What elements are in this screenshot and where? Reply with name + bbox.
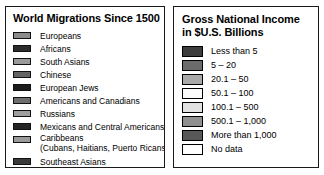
color-swatch-icon: [182, 102, 203, 113]
legend-item-label: 20.1 – 50: [211, 74, 249, 85]
color-swatch-icon: [13, 45, 31, 52]
color-swatch-icon: [13, 123, 31, 130]
legend-item-label: Africans: [40, 44, 71, 54]
migrations-legend-title: World Migrations Since 1500: [13, 12, 158, 25]
color-swatch-icon: [182, 60, 203, 71]
legend-item-label-line2: (Cubans, Haitians, Puerto Ricans): [40, 143, 165, 153]
legend-item-50-to-100: 50.1 – 100: [182, 86, 312, 100]
legend-item-label: Caribbeans (Cubans, Haitians, Puerto Ric…: [40, 133, 165, 153]
legend-item-500-to-1000: 500.1 – 1,000: [182, 114, 312, 128]
legend-item-chinese: Chinese: [13, 68, 158, 81]
color-swatch-icon: [13, 158, 31, 165]
legend-item-africans: Africans: [13, 42, 158, 55]
legend-item-100-to-500: 100.1 – 500: [182, 100, 312, 114]
legend-item-5-to-20: 5 – 20: [182, 58, 312, 72]
gni-legend-title-line2: in $U.S. Billions: [182, 26, 312, 39]
legend-item-label: European Jews: [40, 83, 99, 93]
legend-item-label: More than 1,000: [211, 130, 277, 141]
legend-item-russians: Russians: [13, 107, 158, 120]
legend-item-southeast-asians: Southeast Asians: [13, 155, 158, 168]
legend-item-label: Russians: [40, 109, 75, 119]
color-swatch-icon: [182, 88, 203, 99]
legend-item-europeans: Europeans: [13, 29, 158, 42]
legend-item-label: 100.1 – 500: [211, 102, 259, 113]
color-swatch-icon: [13, 97, 31, 104]
legend-item-mexicans-and-central-americans: Mexicans and Central Americans: [13, 120, 158, 133]
color-swatch-icon: [13, 71, 31, 78]
world-migrations-legend-box: World Migrations Since 1500 Europeans Af…: [5, 6, 165, 168]
color-swatch-icon: [13, 136, 31, 143]
color-swatch-icon: [182, 74, 203, 85]
legend-item-south-asians: South Asians: [13, 55, 158, 68]
legend-item-no-data: No data: [182, 142, 312, 156]
legend-page: World Migrations Since 1500 Europeans Af…: [0, 0, 324, 175]
legend-item-label: Chinese: [40, 70, 71, 80]
color-swatch-icon: [182, 116, 203, 127]
gross-national-income-legend-box: Gross National Income in $U.S. Billions …: [173, 6, 319, 168]
legend-item-label: Mexicans and Central Americans: [40, 122, 164, 132]
legend-item-caribbeans: Caribbeans (Cubans, Haitians, Puerto Ric…: [13, 133, 158, 155]
legend-item-label: 50.1 – 100: [211, 88, 254, 99]
legend-item-label: 500.1 – 1,000: [211, 116, 266, 127]
legend-item-label: Southeast Asians: [40, 157, 106, 167]
legend-item-americans-and-canadians: Americans and Canadians: [13, 94, 158, 107]
legend-item-label-line1: Caribbeans: [40, 133, 165, 143]
legend-item-label: South Asians: [40, 57, 90, 67]
legend-item-20-to-50: 20.1 – 50: [182, 72, 312, 86]
color-swatch-icon: [13, 110, 31, 117]
legend-item-label: 5 – 20: [211, 60, 236, 71]
color-swatch-icon: [13, 58, 31, 65]
legend-item-european-jews: European Jews: [13, 81, 158, 94]
color-swatch-icon: [182, 46, 203, 57]
legend-item-label: Europeans: [40, 31, 81, 41]
color-swatch-icon: [182, 144, 203, 155]
migrations-legend-list: Europeans Africans South Asians Chinese …: [13, 29, 158, 168]
legend-item-label: No data: [211, 144, 243, 155]
gni-legend-title-line1: Gross National Income: [182, 13, 312, 26]
legend-item-label: Less than 5: [211, 46, 258, 57]
color-swatch-icon: [182, 130, 203, 141]
color-swatch-icon: [13, 32, 31, 39]
gni-legend-list: Less than 5 5 – 20 20.1 – 50 50.1 – 100 …: [182, 44, 312, 156]
gni-legend-title: Gross National Income in $U.S. Billions: [182, 13, 312, 39]
legend-item-more-than-1000: More than 1,000: [182, 128, 312, 142]
color-swatch-icon: [13, 84, 31, 91]
legend-item-less-than-5: Less than 5: [182, 44, 312, 58]
legend-item-label: Americans and Canadians: [40, 96, 140, 106]
